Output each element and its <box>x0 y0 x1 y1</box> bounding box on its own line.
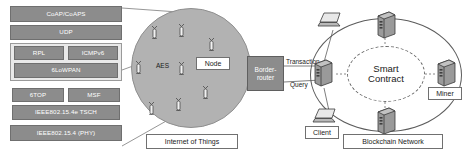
internet-of-things-label: Internet of Things <box>146 134 238 149</box>
blockchain-server-node[interactable] <box>312 60 332 86</box>
iot-sensor-node[interactable] <box>147 101 156 116</box>
iot-sensor-node[interactable] <box>174 97 183 112</box>
blockchain-server-node[interactable] <box>375 108 395 134</box>
iot-sensor-node[interactable] <box>177 61 186 76</box>
iot-sensor-node[interactable] <box>177 23 186 38</box>
smart-contract-node[interactable]: Smart Contract <box>347 46 425 102</box>
border-router-label-line1: Border- <box>255 66 277 73</box>
stack-layer-udp[interactable]: UDP <box>10 25 122 40</box>
query-flow-label: Query <box>290 81 308 88</box>
protocol-stack: CoAP/CoAPS UDP RPL ICMPv6 6LoWPAN 6TOP M… <box>10 6 122 154</box>
stack-layer-rpl[interactable]: RPL <box>14 46 64 60</box>
iot-sensor-node[interactable] <box>134 60 143 75</box>
node-label: Node <box>196 57 230 70</box>
border-router-label-line2: router <box>257 74 274 81</box>
diagram-canvas: CoAP/CoAPS UDP RPL ICMPv6 6LoWPAN 6TOP M… <box>0 0 475 159</box>
stack-layer-tsch[interactable]: IEEE802.15.4e TSCH <box>12 105 120 120</box>
client-label: Client <box>305 126 339 139</box>
border-router-node[interactable]: Border- router <box>247 56 284 91</box>
stack-layer-6lowpan[interactable]: 6LoWPAN <box>14 63 118 78</box>
aes-label: AES <box>156 62 169 69</box>
miner-server-node[interactable] <box>435 60 455 86</box>
stack-layer-6top[interactable]: 6TOP <box>12 88 64 102</box>
stack-layer-msf[interactable]: MSF <box>68 88 120 102</box>
iot-sensor-node[interactable] <box>150 25 159 40</box>
iot-sensor-node[interactable] <box>201 85 210 100</box>
client-laptop[interactable] <box>313 108 339 125</box>
blockchain-server-node[interactable] <box>375 12 395 38</box>
miner-label: Miner <box>428 87 462 100</box>
stack-layer-icmpv6[interactable]: ICMPv6 <box>68 46 118 60</box>
client-laptop[interactable] <box>318 12 344 29</box>
smart-contract-line2: Contract <box>368 74 404 84</box>
iot-sensor-node[interactable] <box>207 37 216 52</box>
stack-layer-coap[interactable]: CoAP/CoAPS <box>10 6 122 22</box>
stack-layer-phy[interactable]: IEEE802.15.4 (PHY) <box>10 125 122 141</box>
blockchain-network-label: Blockchain Network <box>343 134 443 149</box>
